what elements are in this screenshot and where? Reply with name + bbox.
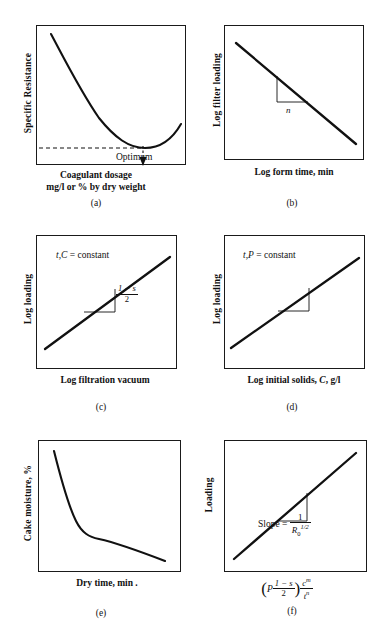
panel-d-annot-variable: t,P <box>243 250 254 260</box>
panel-a-plot-area <box>36 25 186 165</box>
panel-e-x-axis-label: Dry time, min . <box>12 578 202 588</box>
panel-d-y-axis-label: Log loading <box>212 229 222 369</box>
panel-e: Cake moisture, % Dry time, min . (e) <box>0 428 192 623</box>
panel-f-slope-denominator: R01/2 <box>290 522 311 537</box>
panel-a-caption: (a) <box>0 198 192 208</box>
panel-d-slope-triangle <box>278 288 309 311</box>
panel-f-plot-area <box>224 440 367 572</box>
panel-d-annot-equals: = constant <box>254 250 296 260</box>
panel-f-slope-formula: Slope = 1 R01/2 <box>258 512 311 537</box>
panel-f-slope-numerator: 1 <box>290 512 311 522</box>
panel-c-annot-variable: t,C <box>56 250 67 260</box>
panel-b-y-axis-label: Log filter loading <box>212 20 222 160</box>
panel-c-trend-line <box>45 257 170 349</box>
panel-c-condition-annotation: t,C = constant <box>56 250 109 260</box>
panel-f-c-exponent: m <box>306 576 311 583</box>
panel-e-plot-area <box>38 440 181 572</box>
panel-d-x-label-suffix: , g/l <box>326 375 341 385</box>
panel-f-svg <box>225 441 368 573</box>
panel-c-y-axis-label: Log loading <box>23 229 33 369</box>
panel-b-svg <box>225 26 365 161</box>
panel-a-curve <box>51 34 181 148</box>
panel-d-condition-annotation: t,P = constant <box>243 250 296 260</box>
panel-a-x-axis-label-line2: mg/l or % by dry weight <box>0 182 192 192</box>
panel-b-caption: (b) <box>196 198 383 208</box>
panel-b: n Log filter loading Log form time, min … <box>191 10 383 200</box>
panel-c-annot-equals: = constant <box>67 250 109 260</box>
panel-f-trend-line <box>234 453 356 559</box>
panel-b-slope-label: n <box>286 105 291 115</box>
panel-c-slope-fraction: 1 − s 2 <box>116 284 138 304</box>
panel-a-y-axis-label: Specific Resistance <box>23 23 33 163</box>
panel-a: Specific Resistance Optimum Coagulant do… <box>0 10 192 200</box>
figure-six-panel-schematic: Specific Resistance Optimum Coagulant do… <box>0 0 383 628</box>
panel-e-y-axis-label: Cake moisture, % <box>23 433 33 573</box>
panel-a-svg <box>37 26 187 166</box>
panel-d-trend-line <box>231 258 359 348</box>
panel-f-y-axis-label: Loading <box>204 425 214 565</box>
panel-b-x-axis-label: Log form time, min <box>204 167 383 177</box>
panel-c: t,C = constant 1 − s 2 Log loading Log f… <box>0 222 192 412</box>
panel-b-plot-area <box>224 25 364 160</box>
panel-f-x-axis-formula: (P 1 − s 2 ) cm tn <box>191 576 383 602</box>
panel-c-fraction-numerator: 1 − s <box>116 284 138 294</box>
panel-f: Slope = 1 R01/2 Loading (P 1 − s 2 ) cm … <box>191 428 383 623</box>
panel-f-slope-den-exponent: 1/2 <box>301 523 309 530</box>
panel-f-slope-den-subscript: 0 <box>297 530 300 537</box>
panel-f-slope-text: Slope = <box>258 519 290 529</box>
panel-c-x-axis-label: Log filtration vacuum <box>10 375 200 385</box>
panel-e-curve <box>54 451 165 561</box>
panel-d-caption: (d) <box>196 402 383 412</box>
panel-d-x-label-prefix: Log initial solids, <box>248 375 320 385</box>
panel-f-t-exponent: n <box>306 589 309 596</box>
panel-c-caption: (c) <box>5 402 197 412</box>
panel-e-caption: (e) <box>5 608 197 618</box>
panel-f-x-fraction-denominator: 2 <box>273 588 295 599</box>
panel-f-x-fraction-numerator: 1 − s <box>273 579 295 589</box>
panel-c-fraction-denominator: 2 <box>116 294 138 305</box>
panel-f-time-term: tn <box>300 588 313 601</box>
panel-a-optimum-annotation: Optimum <box>116 152 152 162</box>
panel-b-trend-line <box>236 43 356 144</box>
panel-d: t,P = constant Log loading Log initial s… <box>191 222 383 412</box>
panel-b-slope-triangle <box>277 76 308 102</box>
panel-f-concentration-term: cm <box>300 576 313 588</box>
panel-d-x-axis-label: Log initial solids, C, g/l <box>199 375 383 385</box>
panel-a-x-axis-label-line1: Coagulant dosage <box>0 170 192 180</box>
panel-f-caption: (f) <box>196 606 383 616</box>
panel-e-svg <box>39 441 182 573</box>
